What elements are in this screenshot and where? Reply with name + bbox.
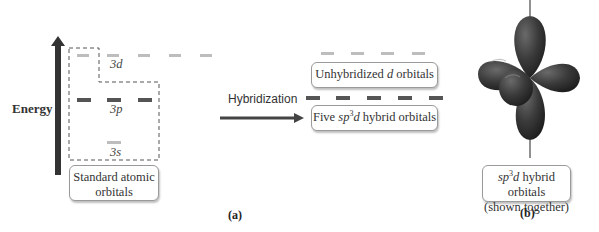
unhybridized-prefix: Unhybridized	[315, 67, 387, 81]
orbital-3d-5	[200, 54, 212, 57]
orbital-3d-1	[77, 54, 89, 57]
hybrid-prefix: Five	[313, 110, 338, 124]
orbital-3p-3	[138, 98, 152, 102]
hybrid-orbital-5	[429, 96, 443, 100]
label-3s: 3s	[110, 145, 121, 160]
hybrid-box: Five sp3d hybrid orbitals	[311, 105, 438, 131]
caption-b: (b)	[520, 206, 535, 221]
unhybridized-suffix: orbitals	[393, 67, 434, 81]
hybrid-orbital-3	[367, 96, 381, 100]
unhybridized-orbital-3	[381, 52, 394, 55]
unhybridized-orbital-2	[351, 52, 364, 55]
hybridization-arrow	[220, 113, 304, 123]
hybrid-sp: sp	[338, 110, 349, 124]
hybrid-orbital-2	[336, 96, 350, 100]
caption-a: (a)	[228, 208, 242, 223]
sp3d-orbitals-illustration	[470, 0, 580, 160]
unhybridized-box: Unhybridized d orbitals	[311, 62, 438, 88]
hybrid-suffix: hybrid orbitals	[360, 110, 436, 124]
standard-box-line1: Standard atomic	[70, 170, 158, 185]
orbital-3d-3	[138, 54, 150, 57]
hybrid-orbital-1	[306, 96, 320, 100]
orbital-3d-4	[169, 54, 181, 57]
sp3d-box: sp3d hybrid orbitals (shown together)	[482, 165, 571, 202]
energy-axis-arrow	[51, 36, 65, 175]
sp3d-box-line1: sp3d hybrid orbitals	[483, 170, 570, 200]
label-3p: 3p	[110, 102, 123, 117]
unhybridized-orbital-1	[321, 52, 334, 55]
orbital-3p-1	[77, 98, 91, 102]
standard-orbitals-box: Standard atomic orbitals	[69, 165, 159, 201]
unhybridized-orbital-4	[412, 52, 425, 55]
standard-box-line2: orbitals	[70, 185, 158, 200]
hybridization-label: Hybridization	[228, 92, 297, 106]
orbital-3s	[107, 141, 121, 144]
energy-label: Energy	[12, 101, 52, 117]
label-3d: 3d	[110, 57, 123, 72]
hybrid-orbital-4	[398, 96, 412, 100]
